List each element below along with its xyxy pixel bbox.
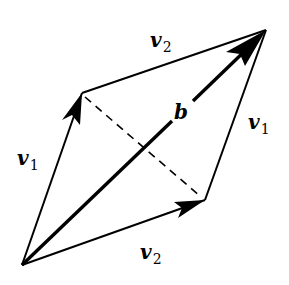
v2-side-top — [82, 30, 266, 93]
label-v1-left-sub: 1 — [30, 157, 39, 173]
label-v1-right-base: v — [248, 110, 260, 134]
vector-parallelogram-diagram: v2 v1 v1 v2 b — [0, 0, 289, 285]
label-v1-right: v1 — [248, 112, 270, 136]
label-v1-left: v1 — [17, 148, 39, 172]
label-v2-bottom-sub: 2 — [153, 251, 162, 267]
label-v2-top-base: v — [150, 28, 162, 52]
label-v1-right-sub: 1 — [261, 121, 270, 137]
label-v2-top-sub: 2 — [163, 39, 172, 55]
label-b: b — [174, 102, 188, 122]
label-v2-bottom: v2 — [140, 242, 162, 266]
v2-vector-bottom — [22, 200, 205, 265]
label-v2-top: v2 — [150, 30, 172, 54]
v1-vector-left — [22, 93, 82, 265]
label-v1-left-base: v — [17, 146, 29, 170]
label-v2-bottom-base: v — [140, 240, 152, 264]
